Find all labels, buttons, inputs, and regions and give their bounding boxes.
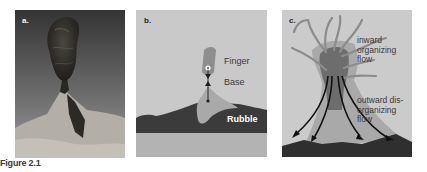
flow-diagram [282,10,412,157]
panel-c-diagram: c. inward organizing flow outward dis- o… [282,10,412,157]
finger-base-rubble-diagram [136,10,267,157]
rock-finger-photo [15,10,125,158]
panel-b-diagram: b. Finger Base Rubble [136,10,267,157]
outward-line-3: flow [357,115,403,125]
finger-annotation: Finger [224,57,250,67]
panel-a-label: a. [22,16,29,25]
panel-a-photo: a. [15,10,125,158]
panel-b-label: b. [144,16,151,25]
inward-flow-annotation: inward organizing flow [357,36,396,65]
panel-c-label: c. [289,16,296,25]
base-annotation: Base [224,78,245,88]
outward-flow-annotation: outward dis- organizing flow [357,96,403,125]
rubble-annotation: Rubble [227,115,258,125]
figure-caption: Figure 2.1 [0,158,41,168]
inward-line-3: flow [357,55,396,65]
